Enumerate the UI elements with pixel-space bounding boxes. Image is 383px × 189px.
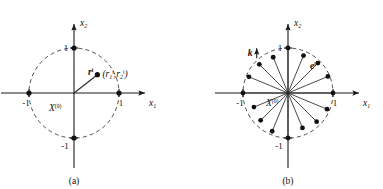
radial-vector-endpoint-dot [257,62,262,67]
r-vector-endpoint-dot [95,72,100,77]
panel-caption-b: (b) [282,176,293,187]
radial-vector-endpoint-dot [314,119,319,124]
math-figure-panel-pair: x1x21-11-1X(0)ri(r1i,r2i)(a)x1x21-11-1X(… [0,0,383,189]
x-axis-label-subscript: 1 [153,103,156,109]
radial-vector-endpoint-dot [252,105,257,110]
radial-vector [288,93,317,122]
point-coordinate-label: (r1i,r2i) [102,69,127,80]
radial-vector-endpoint-dot [325,107,330,112]
axis-dot [71,45,76,50]
radial-vector-endpoint-dot [247,74,252,79]
radial-vector-endpoint-dot [258,118,263,123]
r-vector-label: ri [88,67,94,77]
radial-vector [259,64,288,93]
r-vector [74,75,97,93]
radial-vector-endpoint-dot [316,61,321,66]
panel-a: x1x21-11-1X(0)ri(r1i,r2i)(a) [1,18,156,187]
radial-vector-endpoint-dot [300,126,305,131]
y-positive-tick-label: 1 [64,43,69,53]
radial-vector-endpoint-dot [286,46,291,51]
radial-vector-endpoint-dot [271,55,276,60]
point-label-part-8: ) [123,69,127,80]
x-axis-label-subscript: 1 [367,103,370,109]
x-axis-label: x1 [148,98,156,109]
point-label-part-6: 2 [120,74,123,80]
radial-vector-endpoint-dot [331,91,336,96]
e-unit-vector-label: ei [310,61,316,71]
origin-label: X(0) [48,103,61,114]
panel-caption-a: (a) [69,176,80,187]
radial-vector-endpoint-dot [286,136,291,141]
r-vector-label-superscript: i [92,67,94,73]
origin-label: X(0) [265,98,278,109]
figure-canvas: x1x21-11-1X(0)ri(r1i,r2i)(a)x1x21-11-1X(… [0,0,383,189]
x-negative-tick-label: -1 [22,98,30,108]
y-axis-label-subscript: 2 [84,23,87,29]
y-negative-tick-label: -1 [61,141,69,151]
y-axis-label: x2 [293,18,301,29]
radial-vector-endpoint-dot [270,129,275,134]
x-axis-label: x1 [362,98,370,109]
y-axis-label: x2 [79,18,87,29]
x-negative-tick-label: -1 [236,98,244,108]
point-label-part-2: 1 [109,74,112,80]
y-positive-tick-label: 1 [278,43,283,53]
origin-label-superscript: (0) [55,103,62,110]
axis-dot [116,90,121,95]
axis-dot [26,90,31,95]
panel-b: x1x21-11-1X(0)kei(b) [215,18,370,187]
radial-vector-endpoint-dot [241,91,246,96]
y-axis-label-subscript: 2 [298,23,301,29]
x-positive-tick-label: 1 [333,98,338,108]
y-negative-tick-label: -1 [275,141,283,151]
radial-vector-endpoint-dot [301,53,306,58]
radial-vector-endpoint-dot [326,74,331,79]
axis-dot [71,135,76,140]
x-positive-tick-label: 1 [119,98,124,108]
k-direction-label: k [248,48,253,58]
